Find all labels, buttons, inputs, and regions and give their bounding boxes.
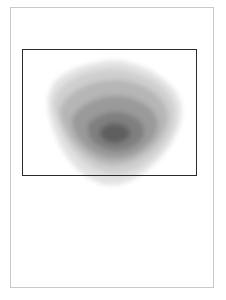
contour-svg [0, 0, 226, 300]
screenshot-root [0, 0, 226, 300]
contour-band-group [48, 61, 181, 185]
contour-density-plot [0, 0, 226, 300]
